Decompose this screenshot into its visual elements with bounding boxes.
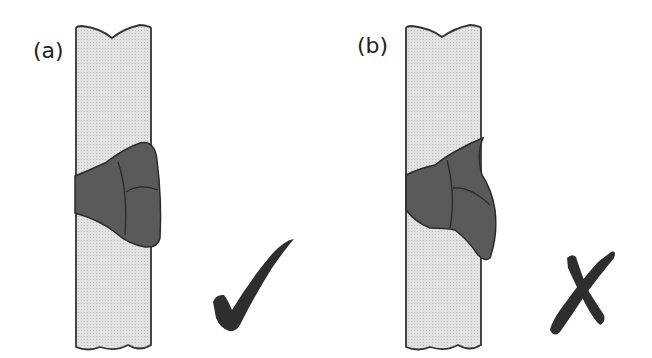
- weld-diagram: [0, 0, 652, 358]
- checkmark-icon: [213, 239, 294, 331]
- cross-icon: [550, 252, 615, 335]
